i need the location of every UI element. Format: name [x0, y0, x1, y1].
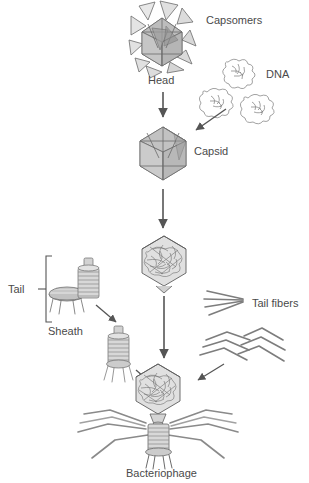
bacteriophage-assembly-diagram: Capsomers Head DNA Capsid [0, 0, 309, 483]
capsomers-label: Capsomers [206, 14, 263, 26]
head-label: Head [148, 74, 174, 86]
capsid-label: Capsid [194, 145, 228, 157]
bacteriophage-label: Bacteriophage [126, 467, 197, 479]
dna-label: DNA [266, 68, 290, 80]
sheath-label: Sheath [48, 325, 83, 337]
tail-fibers-label: Tail fibers [252, 297, 299, 309]
tail-label: Tail [8, 283, 25, 295]
